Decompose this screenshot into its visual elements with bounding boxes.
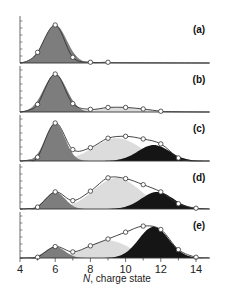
data-point-marker [35,50,39,54]
data-point-marker [53,121,57,125]
data-point-marker [123,176,127,180]
panel-b: (b) [20,66,214,113]
panel-e: (e) [20,212,214,259]
charge-state-distribution-chart: (a)(b)(c)(d)(e) 468101214 N, charge stat… [0,0,230,299]
data-point-marker [35,102,39,106]
data-point-marker [106,176,110,180]
panel-label: (e) [193,220,205,231]
data-point-marker [53,244,57,248]
data-point-marker [71,147,75,151]
data-point-marker [88,189,92,193]
x-tick-label: 12 [155,263,167,275]
data-point-marker [123,105,127,109]
data-point-marker [141,224,145,228]
data-point-marker [71,101,75,105]
data-point-marker [53,190,57,194]
data-point-marker [123,134,127,138]
data-point-marker [71,198,75,202]
panels-group: (a)(b)(c)(d)(e) [20,16,214,259]
x-tick-label: 4 [17,263,23,275]
data-point-marker [176,201,180,205]
data-point-marker [106,60,110,64]
data-point-marker [159,142,163,146]
data-point-marker [123,230,127,234]
data-point-marker [194,206,198,210]
x-tick-label: 14 [190,263,202,275]
panel-d: (d) [20,164,214,210]
data-point-marker [71,250,75,254]
x-tick-label: 6 [52,263,58,275]
data-point-marker [88,146,92,150]
data-point-marker [159,227,163,231]
data-point-marker [35,155,39,159]
data-point-marker [88,107,92,111]
data-point-marker [159,109,163,113]
panel-c: (c) [20,115,214,161]
data-point-marker [106,136,110,140]
data-point-marker [88,244,92,248]
data-point-marker [176,247,180,251]
data-point-marker [71,55,75,59]
panel-label: (c) [193,123,205,134]
data-point-marker [176,156,180,160]
data-point-marker [53,23,57,27]
data-point-marker [159,190,163,194]
panel-a: (a) [20,16,214,64]
panel-label: (b) [193,74,206,85]
data-point-marker [141,137,145,141]
data-point-marker [106,237,110,241]
data-point-marker [53,72,57,76]
data-point-marker [141,107,145,111]
data-point-marker [35,205,39,209]
panel-label: (d) [193,172,206,183]
data-point-marker [141,182,145,186]
x-axis-title: N, charge state [83,273,151,284]
data-point-marker [106,105,110,109]
panel-label: (a) [193,24,205,35]
data-point-marker [88,60,92,64]
